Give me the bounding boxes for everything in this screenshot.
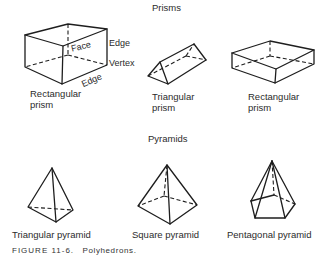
triangular-prism-shape xyxy=(148,44,206,84)
figure-caption: FIGURE 11-6. Polyhedrons. xyxy=(12,246,136,255)
polyhedrons-diagram xyxy=(0,0,332,259)
label-line2: prism xyxy=(30,99,81,110)
annotation-vertex: Vertex xyxy=(109,58,135,68)
label-flat-rectangular-prism: Rectangular prism xyxy=(248,91,299,113)
caption-label: FIGURE 11-6. xyxy=(12,246,74,255)
label-triangular-prism: Triangular prism xyxy=(152,91,194,113)
label-line1: Triangular xyxy=(152,91,194,102)
label-pentagonal-pyramid: Pentagonal pyramid xyxy=(227,229,312,240)
pentagonal-pyramid-shape xyxy=(251,161,295,218)
label-square-pyramid: Square pyramid xyxy=(132,229,199,240)
caption-text: Polyhedrons. xyxy=(83,246,137,255)
square-pyramid-shape xyxy=(138,165,197,224)
label-line1: Rectangular xyxy=(248,91,299,102)
label-triangular-pyramid: Triangular pyramid xyxy=(12,229,91,240)
flat-rectangular-prism-shape xyxy=(232,41,314,83)
triangular-pyramid-shape xyxy=(28,168,73,222)
label-rectangular-prism: Rectangular prism xyxy=(30,88,81,110)
annotation-edge-right: Edge xyxy=(109,38,130,48)
label-line2: prism xyxy=(152,102,194,113)
label-line2: prism xyxy=(248,102,299,113)
label-line1: Rectangular xyxy=(30,88,81,99)
